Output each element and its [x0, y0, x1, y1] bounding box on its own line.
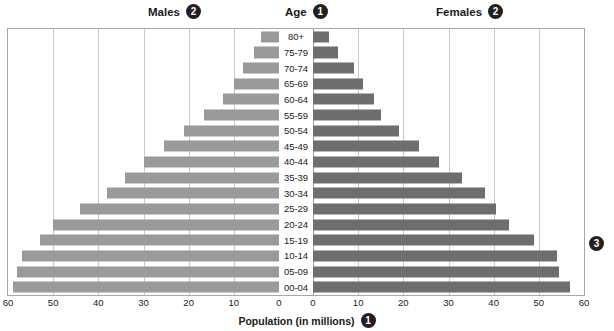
age-group-label: 45-49	[279, 139, 313, 155]
pyramid-row: 30-34	[8, 185, 584, 201]
male-bar	[254, 47, 279, 58]
female-bar-cell	[313, 248, 584, 264]
female-bar-cell	[313, 264, 584, 280]
female-bar-cell	[313, 29, 584, 45]
pyramid-row: 00-04	[8, 279, 584, 295]
male-bar-cell	[8, 232, 279, 248]
pyramid-row: 20-24	[8, 217, 584, 233]
pyramid-row: 45-49	[8, 139, 584, 155]
pyramid-row: 05-09	[8, 264, 584, 280]
x-axis-tick-label: 50	[48, 297, 59, 308]
age-group-label: 80+	[279, 29, 313, 45]
female-bar-cell	[313, 232, 584, 248]
x-axis-tick-label: 0	[310, 297, 315, 308]
female-bar-cell	[313, 123, 584, 139]
male-bar-cell	[8, 45, 279, 61]
male-bar-cell	[8, 217, 279, 233]
male-bar-cell	[8, 29, 279, 45]
male-bar-cell	[8, 279, 279, 295]
female-bar-cell	[313, 45, 584, 61]
x-axis-ticks: 60504030201000102030405060	[0, 297, 614, 311]
pyramid-row: 50-54	[8, 123, 584, 139]
male-bar-cell	[8, 185, 279, 201]
female-bar-cell	[313, 279, 584, 295]
female-bar	[313, 31, 329, 42]
x-axis-tick-label: 30	[138, 297, 149, 308]
callout-badge-axis: 1	[361, 313, 376, 328]
pyramid-row: 25-29	[8, 201, 584, 217]
x-axis-tick-label: 40	[488, 297, 499, 308]
female-bar	[313, 78, 363, 89]
pyramid-row: 15-19	[8, 232, 584, 248]
age-header: Age 1	[285, 4, 328, 19]
x-axis-tick-label: 0	[276, 297, 281, 308]
male-bar-cell	[8, 154, 279, 170]
female-bar	[313, 203, 496, 214]
female-bar	[313, 219, 509, 230]
male-bar	[125, 172, 279, 183]
male-bar-cell	[8, 201, 279, 217]
male-bar-cell	[8, 76, 279, 92]
pyramid-row: 35-39	[8, 170, 584, 186]
male-bar	[164, 141, 279, 152]
pyramid-row: 10-14	[8, 248, 584, 264]
x-axis-tick-label: 60	[579, 297, 590, 308]
male-bar	[234, 78, 279, 89]
female-bar	[313, 141, 419, 152]
age-group-label: 60-64	[279, 92, 313, 108]
female-bar-cell	[313, 201, 584, 217]
x-axis-tick-label: 10	[229, 297, 240, 308]
chart-header: Males 2 Age 1 Females 2	[0, 0, 614, 28]
male-bar	[204, 110, 279, 121]
female-bar-cell	[313, 154, 584, 170]
female-bar	[313, 188, 485, 199]
male-bar	[184, 125, 279, 136]
pyramid-row: 55-59	[8, 107, 584, 123]
age-group-label: 30-34	[279, 185, 313, 201]
x-axis-tick-label: 50	[534, 297, 545, 308]
male-bar	[13, 282, 279, 293]
female-bar	[313, 94, 374, 105]
bar-rows: 80+75-7970-7465-6960-6455-5950-5445-4940…	[8, 29, 584, 295]
male-bar	[107, 188, 279, 199]
age-group-label: 40-44	[279, 154, 313, 170]
x-axis-tick-label: 20	[183, 297, 194, 308]
age-group-label: 70-74	[279, 60, 313, 76]
female-bar	[313, 282, 570, 293]
x-axis-tick-label: 30	[443, 297, 454, 308]
pyramid-row: 75-79	[8, 45, 584, 61]
female-bar	[313, 110, 381, 121]
male-bar-cell	[8, 264, 279, 280]
female-bar	[313, 125, 399, 136]
x-axis-tick-label: 40	[93, 297, 104, 308]
male-bar-cell	[8, 139, 279, 155]
female-bar-cell	[313, 92, 584, 108]
female-bar-cell	[313, 76, 584, 92]
x-axis-tick-label: 10	[353, 297, 364, 308]
age-group-label: 05-09	[279, 264, 313, 280]
population-pyramid-chart: Males 2 Age 1 Females 2 80+75-7970-7465-…	[0, 0, 614, 331]
male-bar-cell	[8, 248, 279, 264]
age-group-label: 20-24	[279, 217, 313, 233]
age-group-label: 55-59	[279, 107, 313, 123]
callout-badge-males: 2	[186, 4, 201, 19]
female-bar-cell	[313, 217, 584, 233]
pyramid-row: 70-74	[8, 60, 584, 76]
x-axis-tick-label: 20	[398, 297, 409, 308]
callout-badge-age: 1	[313, 4, 328, 19]
female-bar	[313, 156, 439, 167]
male-bar	[53, 219, 279, 230]
age-group-label: 50-54	[279, 123, 313, 139]
age-label: Age	[285, 6, 307, 18]
female-bar	[313, 47, 338, 58]
female-bar	[313, 172, 462, 183]
males-header: Males 2	[148, 4, 201, 19]
female-bar-cell	[313, 139, 584, 155]
female-bar	[313, 63, 354, 74]
male-bar	[40, 235, 279, 246]
female-bar	[313, 235, 534, 246]
x-axis-title-text: Population (in millions)	[238, 315, 354, 327]
male-bar	[243, 63, 279, 74]
male-bar	[22, 250, 279, 261]
female-bar-cell	[313, 107, 584, 123]
